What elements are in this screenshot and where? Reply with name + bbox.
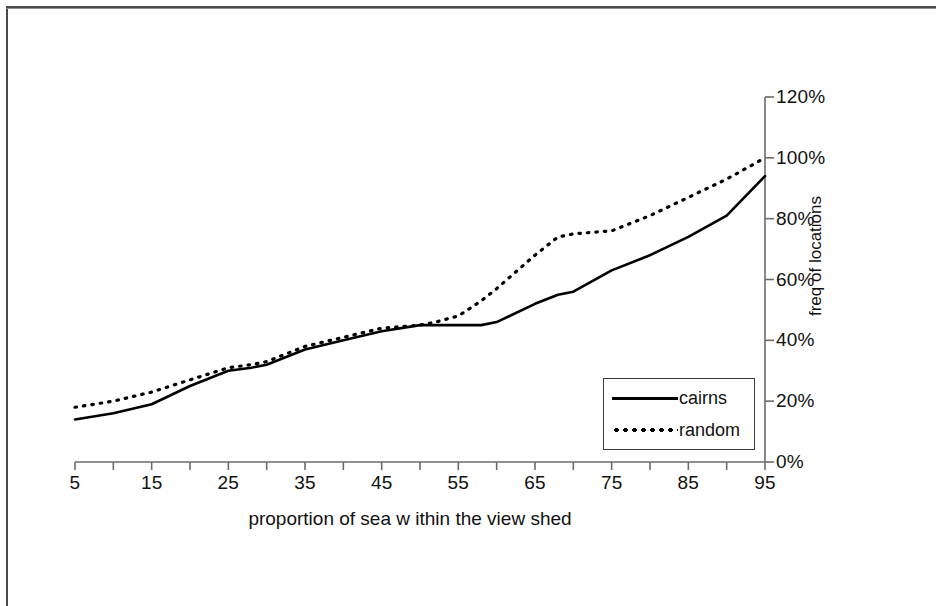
- x-tick-label: 45: [371, 472, 393, 494]
- x-tick-label: 35: [294, 472, 316, 494]
- y-tick-label: 40%: [776, 329, 815, 351]
- legend-label-cairns: cairns: [679, 388, 727, 409]
- x-tick-label: 25: [218, 472, 240, 494]
- y-tick-label: 0%: [776, 451, 804, 473]
- legend-swatch-dotted-line-icon: [612, 424, 678, 436]
- legend-entry-cairns: cairns: [604, 383, 754, 413]
- chart-legend: cairns random: [603, 378, 755, 450]
- x-tick-label: 5: [70, 472, 81, 494]
- legend-entry-random: random: [604, 415, 754, 445]
- y-axis-ticks: [765, 97, 774, 462]
- y-tick-label: 100%: [776, 147, 825, 169]
- x-axis-title: proportion of sea w ithin the view shed: [0, 508, 820, 530]
- x-tick-label: 95: [754, 472, 776, 494]
- x-axis-ticks: [75, 462, 765, 470]
- x-tick-label: 75: [601, 472, 623, 494]
- x-tick-label: 55: [448, 472, 470, 494]
- x-tick-label: 15: [141, 472, 163, 494]
- x-tick-label: 65: [524, 472, 546, 494]
- y-tick-label: 20%: [776, 390, 815, 412]
- y-axis-title: freq of locations: [806, 196, 826, 316]
- y-tick-label: 120%: [776, 86, 825, 108]
- legend-swatch-solid-line-icon: [612, 392, 678, 404]
- x-tick-label: 85: [678, 472, 700, 494]
- legend-label-random: random: [679, 420, 740, 441]
- series-line-random: [75, 158, 765, 407]
